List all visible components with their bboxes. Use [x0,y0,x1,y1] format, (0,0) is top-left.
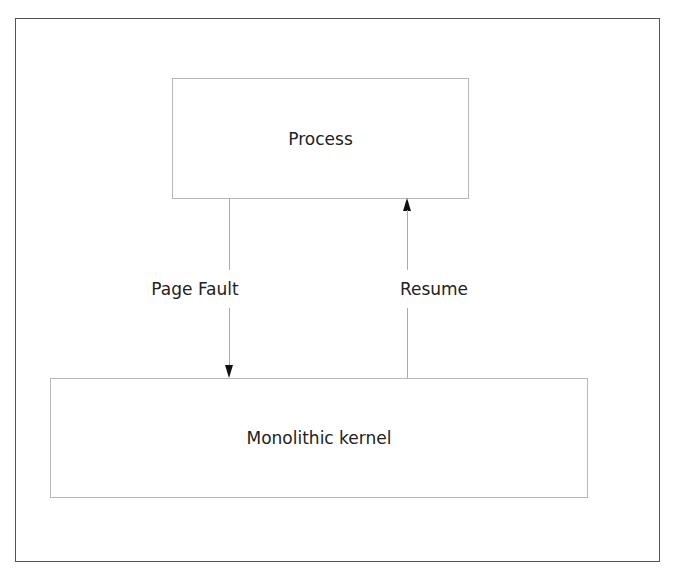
arrow-down-icon [225,365,233,378]
process-node: Process [172,78,469,199]
resume-connector-lower [407,308,408,378]
page-fault-connector-lower [229,308,230,366]
monolithic-kernel-node: Monolithic kernel [50,378,588,498]
resume-connector-upper [407,210,408,270]
resume-label: Resume [400,279,468,299]
page-fault-connector-upper [229,198,230,270]
process-node-label: Process [288,129,353,149]
kernel-node-label: Monolithic kernel [247,428,392,448]
page-fault-label: Page Fault [151,279,238,299]
